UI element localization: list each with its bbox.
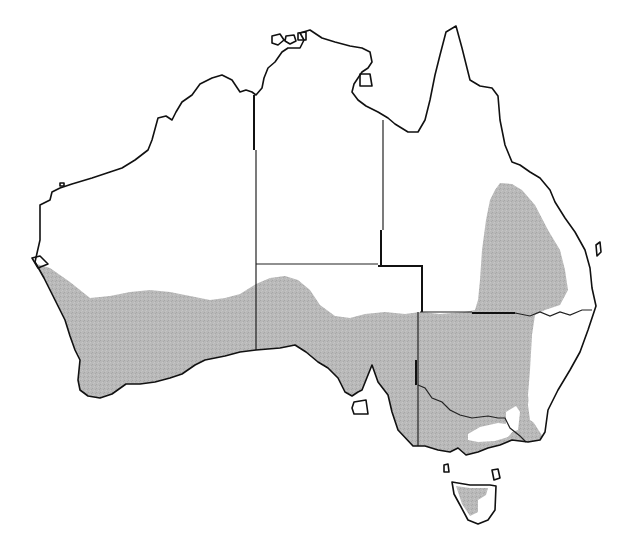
australia-map (0, 0, 620, 545)
king-island (444, 464, 449, 472)
tasmania (452, 482, 496, 524)
kangaroo-island (352, 400, 368, 414)
groote-eylandt (360, 74, 372, 86)
flinders-island (492, 469, 500, 480)
fraser-island (596, 242, 601, 256)
